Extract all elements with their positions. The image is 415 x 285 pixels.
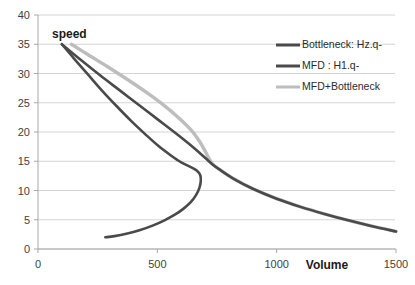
x-tick-label: 500 xyxy=(148,258,166,270)
y-tick-label: 20 xyxy=(18,126,30,138)
y-tick-label: 0 xyxy=(24,243,30,255)
x-tick-label: 1000 xyxy=(264,258,288,270)
legend-label: MFD : H1.q- xyxy=(302,59,360,71)
y-tick-label: 15 xyxy=(18,155,30,167)
y-tick-label: 5 xyxy=(24,214,30,226)
y-tick-label: 30 xyxy=(18,68,30,80)
legend-label: Bottleneck: Hz.q- xyxy=(302,38,382,50)
chart-container: 0510152025303540 050010001500 speed Volu… xyxy=(0,0,415,285)
y-tick-label: 35 xyxy=(18,38,30,50)
legend-label: MFD+Bottleneck xyxy=(302,80,381,92)
x-tick-label: 0 xyxy=(35,258,41,270)
line-chart: 0510152025303540 050010001500 speed Volu… xyxy=(0,0,415,285)
x-tick-label: 1500 xyxy=(384,258,408,270)
y-tick-label: 25 xyxy=(18,97,30,109)
x-axis-title: Volume xyxy=(306,258,349,272)
y-axis-title: speed xyxy=(52,27,87,41)
y-tick-label: 10 xyxy=(18,185,30,197)
y-tick-label: 40 xyxy=(18,9,30,21)
